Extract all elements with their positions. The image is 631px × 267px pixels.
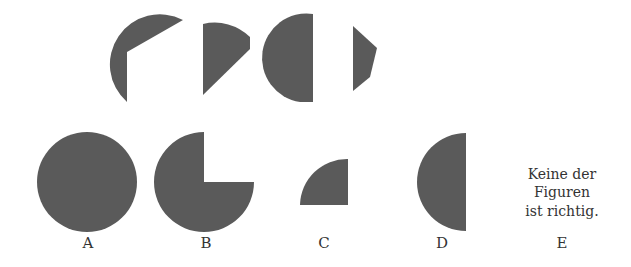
option-d-shape[interactable] xyxy=(417,133,466,231)
option-d-label: D xyxy=(436,234,448,252)
option-c-shape[interactable] xyxy=(300,159,348,205)
puzzle-piece-3 xyxy=(262,14,313,102)
puzzle-canvas: A B C D Keine der Figuren ist richtig. E xyxy=(0,0,631,267)
option-a-shape[interactable] xyxy=(37,132,137,232)
option-e-text[interactable]: Keine der Figuren ist richtig. xyxy=(525,166,598,219)
option-b-shape[interactable] xyxy=(154,132,254,232)
option-c-label: C xyxy=(318,234,329,252)
option-e-line-3: ist richtig. xyxy=(525,203,598,219)
option-e-line-2: Figuren xyxy=(534,184,590,200)
option-a-label: A xyxy=(82,234,94,252)
puzzle-piece-2 xyxy=(203,23,250,95)
option-e-label: E xyxy=(557,234,568,252)
puzzle-piece-4 xyxy=(353,26,377,91)
option-b-label: B xyxy=(200,234,211,252)
option-e-line-1: Keine der xyxy=(528,166,597,182)
puzzle-piece-1 xyxy=(110,14,183,102)
